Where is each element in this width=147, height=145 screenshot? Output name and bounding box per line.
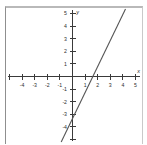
x-tick-label--4: -4: [20, 82, 25, 88]
y-tick-label--3: -3: [62, 111, 67, 117]
y-tick-label-3: 3: [64, 36, 67, 42]
x-tick-label-3: 3: [109, 82, 112, 88]
coordinate-plot-figure: -4 -3 -2 -1 1 2 3 4 5 5 4 3 2 1 -1 -2 -3…: [0, 0, 147, 145]
y-tick-label-2: 2: [64, 48, 67, 54]
y-tick-label--4: -4: [62, 124, 67, 130]
x-tick-label-5: 5: [134, 82, 137, 88]
y-tick-label-5: 5: [64, 10, 67, 16]
coordinate-plane: -4 -3 -2 -1 1 2 3 4 5 5 4 3 2 1 -1 -2 -3…: [0, 0, 147, 145]
y-tick-label--1: -1: [62, 86, 67, 92]
plotted-line-series: [61, 9, 125, 142]
x-axis-label: x: [136, 68, 140, 74]
x-tick-label-4: 4: [121, 82, 124, 88]
x-tick-label--3: -3: [32, 82, 37, 88]
y-tick-label-1: 1: [64, 61, 67, 67]
x-tick-label-1: 1: [84, 82, 87, 88]
y-tick-label--2: -2: [62, 99, 67, 105]
y-axis-label: y: [75, 9, 79, 15]
y-tick-label-4: 4: [64, 23, 67, 29]
x-tick-label--2: -2: [45, 82, 50, 88]
x-tick-label-2: 2: [96, 82, 99, 88]
